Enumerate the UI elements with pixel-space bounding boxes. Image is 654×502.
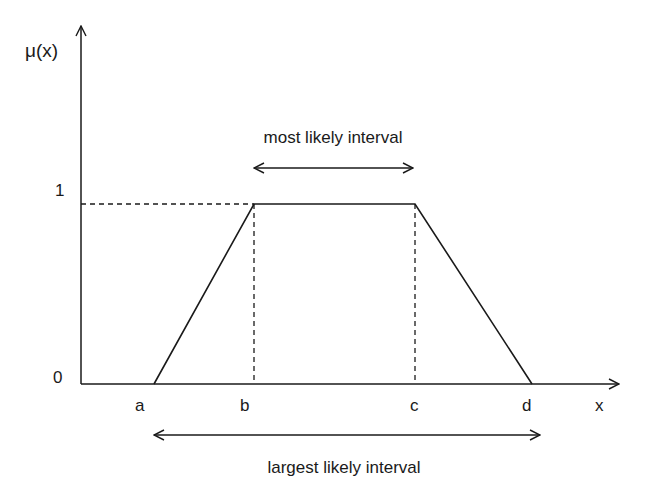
x-point-d: d: [522, 396, 531, 415]
x-axis-label: x: [595, 396, 604, 415]
most-likely-interval-label: most likely interval: [264, 128, 403, 147]
x-point-b: b: [240, 396, 249, 415]
trapezoid-curve: [154, 204, 532, 384]
y-tick-0: 0: [53, 368, 62, 387]
largest-likely-interval-label: largest likely interval: [267, 458, 420, 477]
y-axis-label: μ(x): [25, 40, 58, 61]
x-point-c: c: [410, 396, 419, 415]
x-point-a: a: [135, 396, 145, 415]
y-tick-1: 1: [55, 181, 64, 200]
membership-function-diagram: μ(x) 1 0 a b c d x most likely interval …: [0, 0, 654, 502]
